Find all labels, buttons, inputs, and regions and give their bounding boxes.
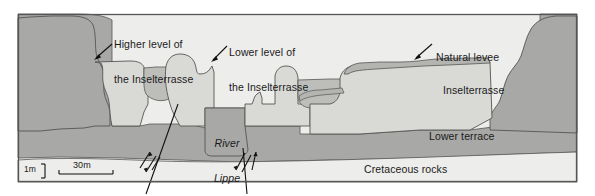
scale-label-horizontal: 30m bbox=[73, 160, 91, 170]
geological-cross-section-figure: Higher level of the Inselterrasse Lower … bbox=[0, 0, 595, 196]
callout-higher-level-line2: the Inselterrasse bbox=[114, 74, 193, 86]
callout-lower-level-line2: the Inselterrasse bbox=[229, 82, 308, 94]
unit-label-inselterrasse: Inselterrasse bbox=[443, 85, 504, 97]
unit-label-cretaceous-rocks: Cretaceous rocks bbox=[364, 164, 447, 176]
unit-label-lower-terrace: Lower terrace bbox=[429, 131, 495, 143]
river-lippe-label: River Lippe bbox=[207, 114, 247, 196]
river-label-line1: River bbox=[207, 138, 247, 150]
river-label-line2: Lippe bbox=[207, 173, 247, 185]
callout-natural-levee-line1: Natural levee bbox=[436, 52, 499, 64]
callout-label-natural-levee: Natural levee bbox=[436, 28, 499, 87]
callout-label-lower-level: Lower level of the Inselterrasse bbox=[229, 23, 308, 117]
callout-label-higher-level: Higher level of the Inselterrasse bbox=[114, 15, 193, 109]
scale-label-vertical: 1m bbox=[24, 165, 36, 175]
callout-higher-level-line1: Higher level of bbox=[114, 39, 193, 51]
callout-lower-level-line1: Lower level of bbox=[229, 47, 308, 59]
